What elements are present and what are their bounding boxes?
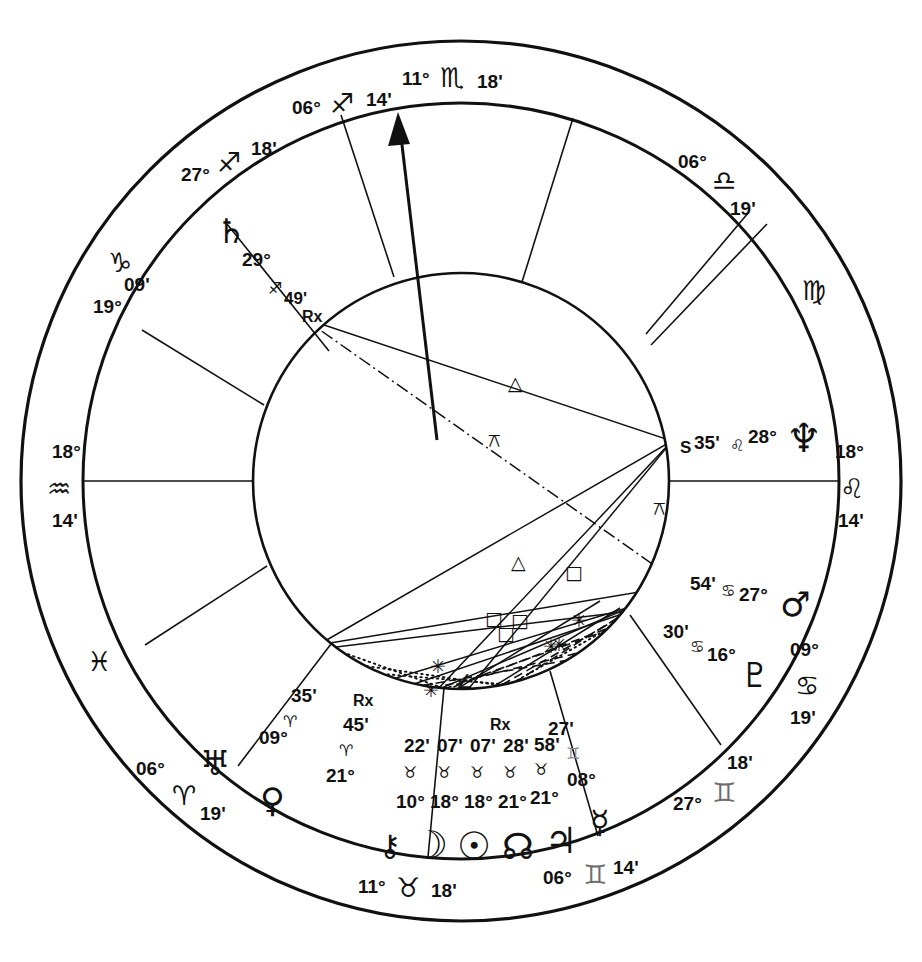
label-virgo-sign: ♍ [802, 275, 826, 306]
label-h12-sign: ♐ [217, 147, 241, 178]
mercury-glyph-icon: ☿ [590, 803, 610, 841]
cluster-min-1: 07' [437, 735, 463, 756]
cluster-deg-1: 18° [430, 791, 459, 812]
pluto-degree: 16° [707, 644, 736, 665]
north-node-glyph-icon: ☊ [502, 826, 534, 867]
label-h12-min: 18' [251, 138, 277, 159]
label-h6-deg: 27° [673, 793, 702, 814]
sextile-c-icon: ✳ [543, 635, 559, 657]
uranus-minute: 35' [291, 685, 317, 706]
label-ic-deg: 11° [358, 876, 386, 897]
chart-svg: 11° ♏ 18' 06° ♐ 14' 27° ♐ 18' 09' ♑ 19° … [0, 0, 922, 962]
label-h11-min: 14' [366, 89, 392, 110]
neptune-station: S [680, 438, 691, 457]
moon-glyph-icon: ☽ [414, 823, 448, 867]
venus-sign-icon: ♈ [339, 741, 353, 760]
label-h3-deg: 06° [136, 758, 165, 779]
cluster-sign-3: ♉ [503, 763, 517, 782]
label-h9-sign: ♎ [712, 165, 736, 196]
venus-degree: 21° [326, 765, 355, 786]
label-h13-sign: ♑ [108, 247, 132, 278]
mercury-degree: 08° [567, 769, 596, 790]
label-mc-sign: ♏ [440, 62, 464, 93]
cluster-min-0: 22' [404, 735, 430, 756]
sextile-d-icon: ✳ [430, 655, 446, 677]
label-asc-sign: ♒ [47, 473, 71, 504]
label-h12-deg: 27° [181, 164, 210, 185]
label-h5-sign: ♊ [583, 859, 607, 890]
astrology-chart-wheel: 11° ♏ 18' 06° ♐ 14' 27° ♐ 18' 09' ♑ 19° … [0, 0, 922, 962]
label-dsc-min: 14' [838, 510, 864, 531]
cluster-sign-1: ♉ [437, 763, 451, 782]
venus-glyph-icon: ♀ [260, 780, 285, 820]
sun-glyph-icon: ☉ [457, 824, 491, 868]
pluto-sign-icon: ♋ [690, 637, 704, 656]
label-h6-sign: ♊ [712, 777, 736, 808]
venus-retrograde: Rx [353, 692, 374, 709]
label-h13-deg: 19° [93, 296, 122, 317]
trine-lower-icon: △ [511, 551, 526, 573]
label-h11-deg: 06° [292, 97, 321, 118]
uranus-degree: 09° [259, 727, 288, 748]
chiron-glyph-icon: ⚷ [379, 828, 401, 863]
label-cancer-min: 19' [790, 707, 816, 728]
label-mc-deg: 11° [402, 68, 430, 89]
saturn-degree: 29° [242, 249, 271, 270]
quincunx-upper-icon: ⚻ [488, 429, 501, 451]
trine-upper-icon: △ [508, 372, 523, 394]
cluster-sign-4: ♉ [534, 760, 548, 779]
label-h11-sign: ♐ [330, 88, 354, 119]
pluto-minute: 30' [663, 621, 689, 642]
label-h3-min: 19' [200, 803, 226, 824]
mars-degree: 27° [739, 584, 768, 605]
label-h6-min: 18' [727, 752, 753, 773]
semisquare-icon: ∠ [456, 670, 473, 692]
cluster-deg-0: 10° [396, 791, 425, 812]
quincunx-right-icon: ⚻ [653, 497, 666, 519]
mercury-sign-icon: ♊ [566, 744, 580, 763]
square-a-icon: □ [565, 561, 583, 583]
neptune-glyph-icon: ♆ [786, 415, 822, 461]
label-pisces-sign: ♓ [87, 646, 111, 677]
label-cancer-outer: 09° ♋ 19' [790, 639, 819, 728]
cluster-sign-0: ♉ [403, 763, 417, 782]
label-h9-deg: 06° [678, 151, 707, 172]
saturn-retrograde: Rx [302, 308, 323, 325]
label-dsc-sign: ♌ [840, 473, 864, 504]
mercury-minute: 27' [548, 718, 574, 739]
venus-minute: 45' [343, 714, 369, 735]
mars-minute: 54' [690, 573, 716, 594]
label-asc-deg: 18° [52, 441, 81, 462]
cluster-deg-4: 21° [530, 787, 559, 808]
jupiter-glyph-icon: ♃ [545, 820, 577, 861]
mars-sign-icon: ♋ [721, 581, 735, 600]
label-cancer-sign: ♋ [795, 670, 819, 701]
label-asc-min: 14' [52, 510, 78, 531]
neptune-degree: 28° [748, 426, 777, 447]
cluster-sign-2: ♉ [470, 763, 484, 782]
saturn-sign-icon: ♐ [268, 279, 282, 298]
pluto-glyph-icon: ♇ [740, 655, 770, 695]
label-h5-min: 14' [613, 857, 639, 878]
node-retrograde: Rx [490, 716, 511, 733]
cluster-min-3: 28' [503, 735, 529, 756]
cluster-deg-2: 18° [464, 791, 493, 812]
sextile-a-icon: ✳ [571, 609, 587, 631]
label-cancer-deg: 09° [790, 639, 819, 660]
saturn-glyph-icon: ♄ [216, 211, 246, 251]
label-dsc-deg: 18° [835, 441, 864, 462]
saturn-minute: 49' [284, 289, 307, 308]
label-h3-sign: ♈ [172, 780, 196, 811]
uranus-glyph-icon: ♅ [200, 743, 230, 783]
square-d-icon: □ [497, 622, 515, 644]
label-h5-deg: 06° [543, 867, 572, 888]
label-mc-min: 18' [477, 71, 503, 92]
label-ic-min: 18' [431, 880, 457, 901]
cluster-min-2: 07' [470, 735, 496, 756]
sextile-e-icon: ✳ [423, 679, 439, 701]
neptune-minute: 35' [694, 432, 720, 453]
neptune-sign-icon: ♌ [730, 436, 744, 455]
mars-glyph-icon: ♂ [780, 584, 810, 624]
label-h9-min: 19' [730, 198, 756, 219]
label-dsc: 18° ♌ 14' [835, 441, 864, 531]
